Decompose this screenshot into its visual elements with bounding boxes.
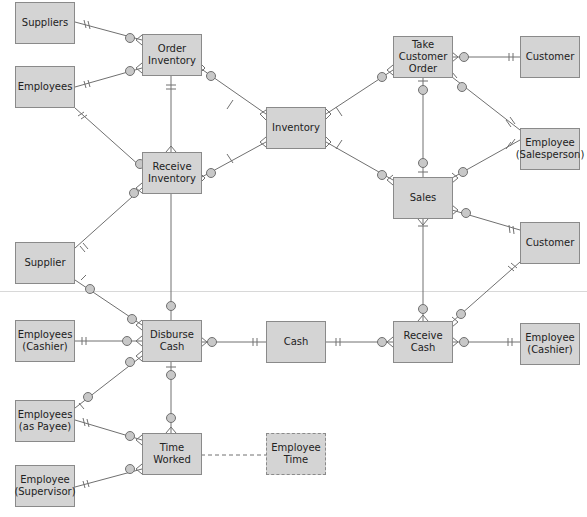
entity-employees-as-payee: Employees (as Payee) [15,400,75,442]
entity-receive-inventory: Receive Inventory [142,152,202,194]
entity-receive-cash: Receive Cash [393,321,453,363]
entity-customer-top: Customer [520,36,580,78]
entity-suppliers: Suppliers [15,2,75,44]
entity-customer-mid: Customer [520,222,580,264]
entity-employee-salesperson: Employee (Salesperson) [520,128,580,170]
entity-employees-cashier: Employees (Cashier) [15,320,75,362]
entity-disburse-cash: Disburse Cash [142,320,202,362]
entity-employee-supervisor: Employee (Supervisor) [15,465,75,507]
entity-employee-cashier: Employee (Cashier) [520,323,580,365]
entity-supplier: Supplier [15,242,75,284]
entity-inventory: Inventory [266,107,326,149]
entity-employee-time: Employee Time [266,433,326,475]
entity-order-inventory: Order Inventory [142,34,202,76]
entity-take-customer-order: Take Customer Order [393,36,453,78]
entity-cash: Cash [266,321,326,363]
er-diagram: Suppliers Order Inventory Employees Inve… [0,0,587,517]
entity-sales: Sales [393,177,453,219]
entity-time-worked: Time Worked [142,433,202,475]
entity-employees: Employees [15,66,75,108]
